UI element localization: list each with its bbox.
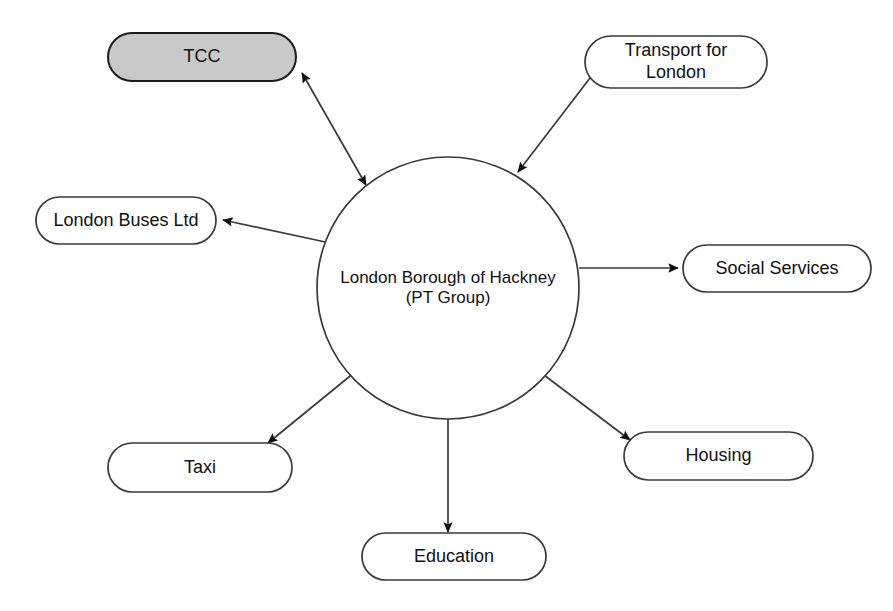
node-shape-tcc[interactable] <box>108 33 296 81</box>
edge-tfl-hub <box>518 78 590 172</box>
edge-hub-housing <box>540 372 630 440</box>
edge-hub-tcc <box>302 73 366 185</box>
diagram-canvas: London Borough of Hackney (PT Group) TCC… <box>0 0 893 611</box>
node-shape-transport-for-london[interactable] <box>585 36 767 88</box>
node-shape-social-services[interactable] <box>683 245 871 292</box>
node-shape-housing[interactable] <box>624 432 813 480</box>
node-shape-hub[interactable] <box>317 157 579 419</box>
node-shape-london-buses-ltd[interactable] <box>36 197 216 244</box>
edge-hub-london-buses <box>223 220 330 243</box>
node-shape-layer <box>36 33 871 580</box>
node-shape-taxi[interactable] <box>108 443 292 492</box>
node-shape-education[interactable] <box>362 533 546 580</box>
diagram-svg <box>0 0 893 611</box>
edge-hub-taxi <box>268 372 355 443</box>
